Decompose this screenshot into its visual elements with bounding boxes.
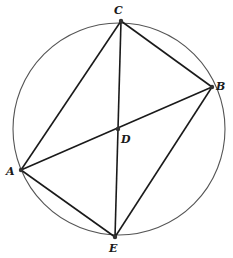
label-E: E bbox=[108, 242, 118, 255]
label-A: A bbox=[5, 165, 15, 178]
circle-geometry-diagram: A B C D E bbox=[0, 0, 233, 258]
segment-BE bbox=[115, 87, 212, 237]
point-B bbox=[210, 85, 214, 89]
label-B: B bbox=[215, 80, 225, 93]
point-A bbox=[19, 168, 23, 172]
label-C: C bbox=[114, 4, 123, 17]
segment-EA bbox=[21, 170, 115, 237]
point-D bbox=[116, 127, 120, 131]
point-C bbox=[119, 19, 123, 23]
label-D: D bbox=[120, 133, 131, 146]
segment-CB bbox=[121, 21, 212, 87]
point-E bbox=[113, 235, 117, 239]
